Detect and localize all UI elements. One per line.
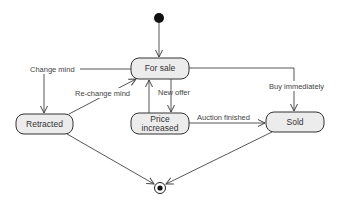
- state-for-sale[interactable]: For sale: [131, 58, 189, 79]
- initial-node: [154, 13, 164, 23]
- label-buy-immediately: Buy immediately: [269, 82, 324, 91]
- state-price-increased[interactable]: Price increased: [131, 113, 189, 134]
- final-node: [155, 183, 166, 194]
- label-change-mind: Change mind: [30, 65, 75, 74]
- state-retracted-label: Retracted: [26, 119, 63, 129]
- label-auction-finished: Auction finished: [197, 113, 250, 122]
- state-for-sale-label: For sale: [145, 63, 176, 73]
- state-retracted[interactable]: Retracted: [16, 114, 73, 134]
- edge-sold-to-final: [166, 132, 272, 184]
- state-sold-label: Sold: [286, 117, 303, 127]
- label-re-change-mind: Re-change mind: [75, 89, 130, 98]
- state-diagram: For sale Retracted Price increased Sold …: [0, 0, 340, 203]
- label-new-offer: New offer: [158, 88, 190, 97]
- state-sold[interactable]: Sold: [266, 112, 324, 132]
- edge-retracted-to-final: [67, 134, 154, 184]
- state-price-increased-label-line2: increased: [142, 123, 179, 133]
